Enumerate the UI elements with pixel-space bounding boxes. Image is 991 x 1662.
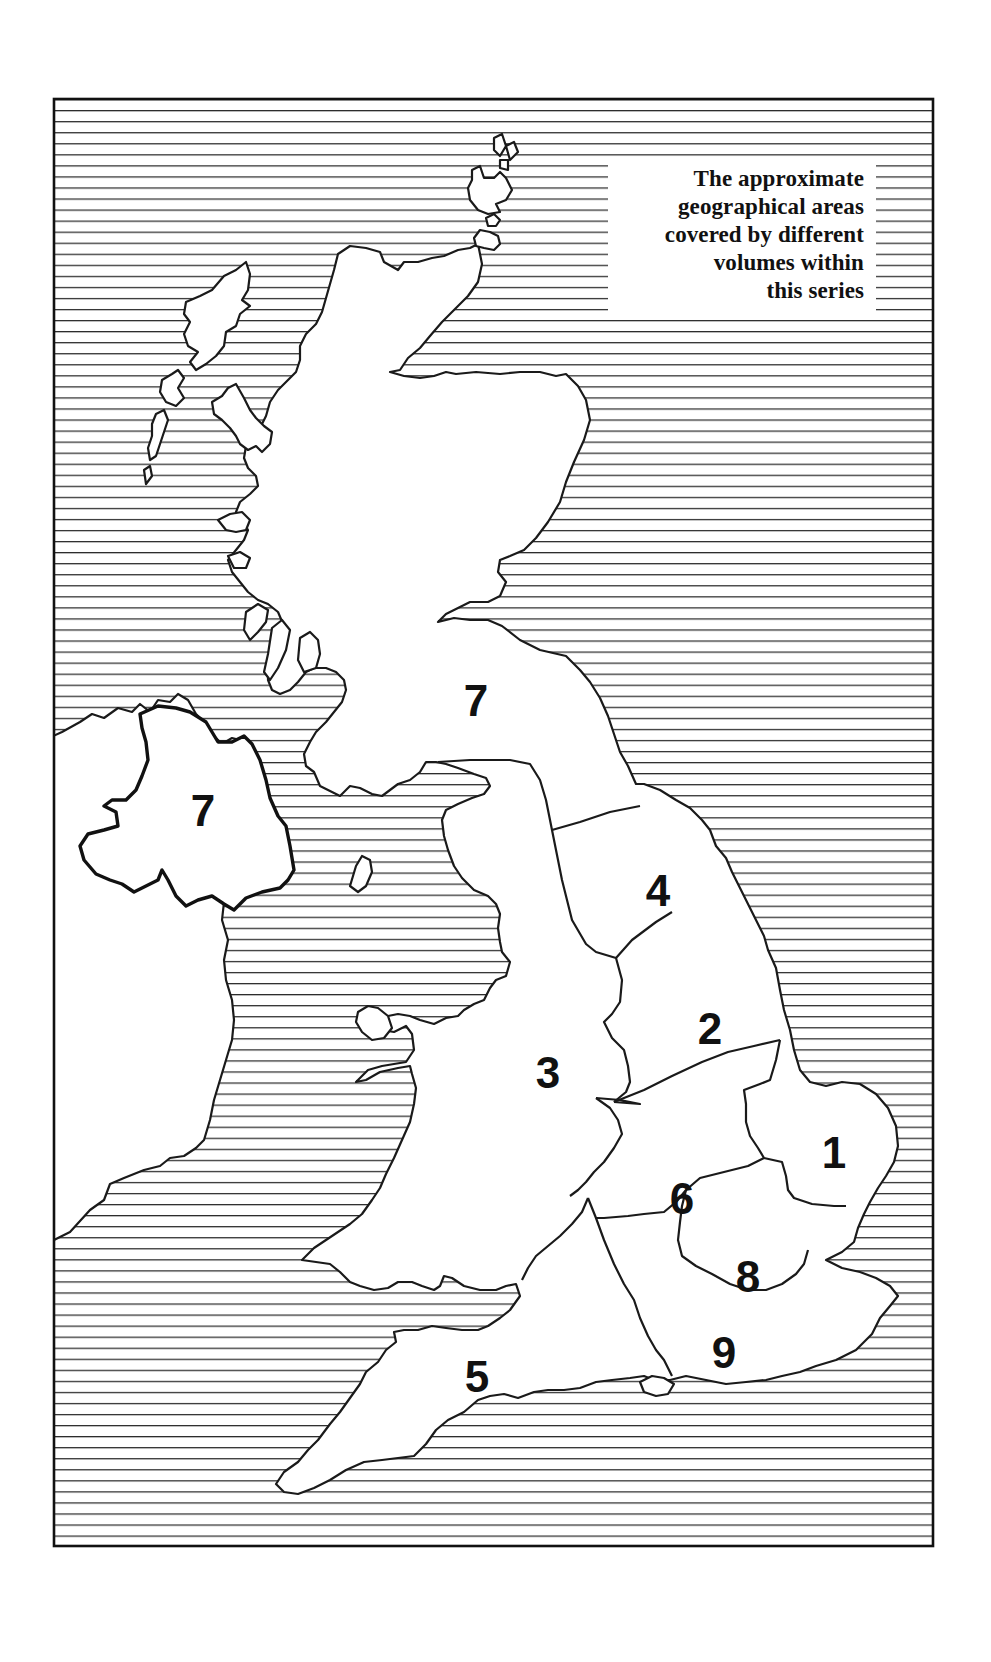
region-label-7-scotland: 7 bbox=[464, 676, 488, 725]
region-label-8: 8 bbox=[736, 1252, 760, 1301]
legend-line-3: covered by different bbox=[608, 221, 864, 249]
region-label-1: 1 bbox=[822, 1128, 846, 1177]
region-label-4: 4 bbox=[646, 866, 671, 915]
region-label-9: 9 bbox=[712, 1328, 736, 1377]
map-figure: 7 7 4 2 3 1 6 8 9 5 The approximate geog… bbox=[0, 0, 991, 1662]
legend-line-1: The approximate bbox=[608, 165, 864, 193]
legend-line-4: volumes within bbox=[608, 249, 864, 277]
isle-of-arran bbox=[298, 632, 320, 672]
region-label-2: 2 bbox=[698, 1004, 722, 1053]
region-label-6: 6 bbox=[670, 1174, 694, 1223]
legend-box: The approximate geographical areas cover… bbox=[608, 157, 876, 315]
legend-line-2: geographical areas bbox=[608, 193, 864, 221]
region-label-7-northern-ireland: 7 bbox=[191, 786, 215, 835]
region-label-3: 3 bbox=[536, 1048, 560, 1097]
region-label-5: 5 bbox=[465, 1352, 489, 1401]
legend-line-5: this series bbox=[608, 277, 864, 305]
